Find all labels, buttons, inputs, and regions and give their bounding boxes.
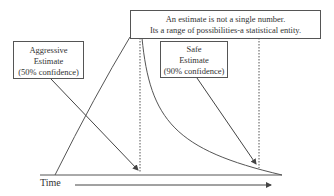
time-axis-label: Time	[40, 177, 61, 188]
safe-line-3: (90% confidence)	[161, 66, 227, 77]
headline-line-1: An estimate is not a single number.	[131, 14, 320, 25]
aggressive-line-1: Aggressive	[14, 45, 83, 56]
headline-line-2: Its a range of possibilities-a statistic…	[131, 25, 320, 36]
safe-line-2: Estimate	[161, 55, 227, 66]
aggressive-estimate-box: Aggressive Estimate (50% confidence)	[13, 41, 84, 79]
safe-estimate-box: Safe Estimate (90% confidence)	[160, 41, 228, 78]
safe-line-1: Safe	[161, 44, 227, 55]
headline-box: An estimate is not a single number. Its …	[130, 10, 321, 39]
safe-pointer-arrow	[197, 78, 256, 164]
aggressive-line-3: (50% confidence)	[14, 67, 83, 78]
aggressive-line-2: Estimate	[14, 56, 83, 67]
